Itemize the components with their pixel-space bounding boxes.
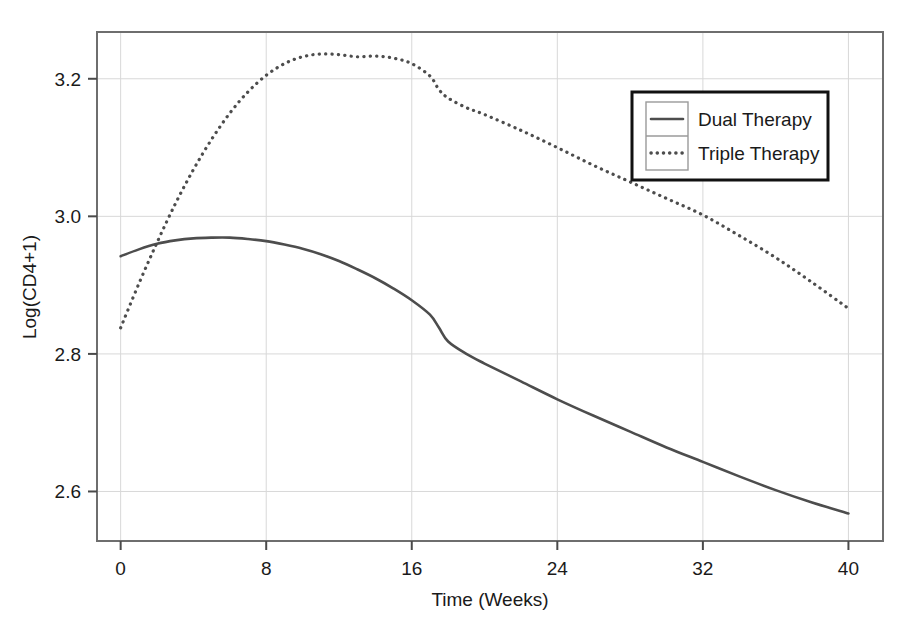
y-tick-label: 2.6 [55, 481, 81, 502]
chart-legend[interactable]: Dual TherapyTriple Therapy [632, 92, 828, 180]
y-axis-title: Log(CD4+1) [19, 235, 40, 339]
x-tick-label: 8 [261, 558, 272, 579]
x-tick-label: 24 [547, 558, 569, 579]
y-tick-label: 3.0 [55, 206, 81, 227]
y-tick-label: 2.8 [55, 344, 81, 365]
y-tick-label: 3.2 [55, 69, 81, 90]
chart-figure: 08162432402.62.83.03.2 Time (Weeks) Log(… [0, 0, 913, 636]
x-tick-label: 16 [401, 558, 422, 579]
x-tick-label: 40 [838, 558, 859, 579]
x-tick-label: 32 [692, 558, 713, 579]
x-tick-label: 0 [115, 558, 126, 579]
chart-canvas: 08162432402.62.83.03.2 Time (Weeks) Log(… [0, 0, 913, 636]
x-axis-title: Time (Weeks) [431, 589, 548, 610]
legend-label-solid[interactable]: Dual Therapy [698, 109, 812, 130]
legend-label-dotted[interactable]: Triple Therapy [698, 143, 820, 164]
